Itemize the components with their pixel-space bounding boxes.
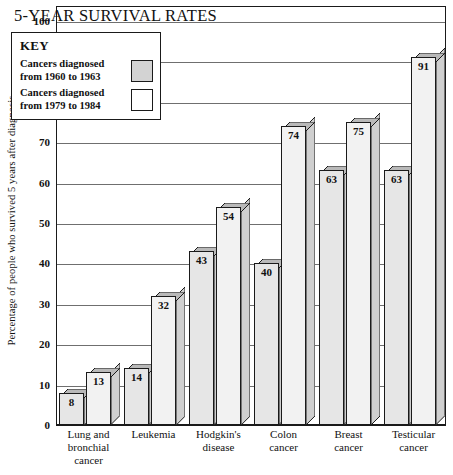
y-axis-title-text: Percentage of people who survived 5 year… xyxy=(6,95,17,345)
bar-value-label: 54 xyxy=(216,210,241,222)
bar-value-label: 43 xyxy=(189,254,214,266)
x-label-3-line1: Hodgkin's xyxy=(186,428,251,441)
bar-front-face xyxy=(281,126,306,425)
bar-new: 32 xyxy=(151,287,176,425)
x-label-6-line1: Testicular xyxy=(381,428,446,441)
legend-swatch-empty-icon xyxy=(131,89,153,111)
chart-title: 5-YEAR SURVIVAL RATES xyxy=(14,6,217,26)
bar-new: 91 xyxy=(411,48,436,425)
bar-front-face xyxy=(384,170,409,425)
bar-value-label: 13 xyxy=(86,375,111,387)
x-label-1-line3: cancer xyxy=(56,454,121,467)
x-label-1-line2: bronchial xyxy=(56,441,121,454)
bar-value-label: 74 xyxy=(281,129,306,141)
legend-heading: KEY xyxy=(20,38,153,54)
x-label-2: Leukemia xyxy=(121,428,186,441)
bar-old: 63 xyxy=(384,161,409,425)
bar-top-cap xyxy=(86,363,120,372)
x-label-2-line1: Leukemia xyxy=(121,428,186,441)
bar-value-label: 32 xyxy=(151,299,176,311)
bar-new: 13 xyxy=(86,363,111,425)
bar-front-face xyxy=(189,251,214,425)
x-label-4-line2: cancer xyxy=(251,441,316,454)
y-tick-label-40: 40 xyxy=(39,257,50,269)
bar-top-cap xyxy=(281,117,315,126)
x-label-1: Lung andbronchialcancer xyxy=(56,428,121,467)
bar-front-face xyxy=(254,263,279,425)
legend-entry-1960-1963-line2: from 1960 to 1963 xyxy=(20,71,104,84)
legend-swatch-filled-icon xyxy=(131,60,153,82)
legend-entry-1979-1984-line1: Cancers diagnosed xyxy=(20,87,104,100)
bar-front-face xyxy=(151,296,176,425)
legend: KEY Cancers diagnosed from 1960 to 1963 … xyxy=(11,32,161,120)
bar-top-cap xyxy=(411,48,445,57)
bar-side-face xyxy=(306,117,315,425)
y-tick-label-30: 30 xyxy=(39,298,50,310)
bar-group: 4074 xyxy=(254,6,315,425)
bar-new: 75 xyxy=(346,113,371,425)
legend-entry-1960-1963-line1: Cancers diagnosed xyxy=(20,58,104,71)
bar-old: 14 xyxy=(124,359,149,425)
legend-entry-1960-1963-text: Cancers diagnosed from 1960 to 1963 xyxy=(20,58,104,83)
y-tick-label-0: 0 xyxy=(45,419,51,431)
bar-front-face xyxy=(216,207,241,425)
bar-group: 6391 xyxy=(384,6,445,425)
x-axis-category-labels: Lung andbronchialcancerLeukemiaHodgkin's… xyxy=(56,428,446,475)
bar-value-label: 63 xyxy=(319,173,344,185)
bar-new: 74 xyxy=(281,117,306,425)
y-tick-label-10: 10 xyxy=(39,379,50,391)
bar-new: 54 xyxy=(216,198,241,425)
y-tick-label-20: 20 xyxy=(39,338,50,350)
bar-old: 63 xyxy=(319,161,344,425)
x-label-5-line1: Breast xyxy=(316,428,381,441)
bar-top-cap xyxy=(151,287,185,296)
legend-entry-1979-1984-line2: from 1979 to 1984 xyxy=(20,100,104,113)
y-tick-label-60: 60 xyxy=(39,177,50,189)
legend-entry-1979-1984: Cancers diagnosed from 1979 to 1984 xyxy=(20,87,153,112)
bar-old: 8 xyxy=(59,384,84,425)
bar-value-label: 75 xyxy=(346,125,371,137)
bar-front-face xyxy=(319,170,344,425)
x-label-5: Breastcancer xyxy=(316,428,381,454)
bar-value-label: 91 xyxy=(411,60,436,72)
bar-side-face xyxy=(371,113,380,425)
x-label-4: Coloncancer xyxy=(251,428,316,454)
bar-front-face xyxy=(411,57,436,425)
bar-front-face xyxy=(346,122,371,425)
bar-side-face xyxy=(241,198,250,425)
x-label-1-line1: Lung and xyxy=(56,428,121,441)
bar-chart-figure: Percentage of people who survived 5 year… xyxy=(0,0,453,475)
bar-top-cap xyxy=(346,113,380,122)
bar-side-face xyxy=(436,48,445,425)
bar-top-cap xyxy=(216,198,250,207)
bar-group: 6375 xyxy=(319,6,380,425)
bar-value-label: 40 xyxy=(254,266,279,278)
x-label-3: Hodgkin'sdisease xyxy=(186,428,251,454)
legend-entry-1979-1984-text: Cancers diagnosed from 1979 to 1984 xyxy=(20,87,104,112)
bar-side-face xyxy=(176,287,185,425)
bar-old: 43 xyxy=(189,242,214,425)
x-label-5-line2: cancer xyxy=(316,441,381,454)
x-label-3-line2: disease xyxy=(186,441,251,454)
bar-value-label: 63 xyxy=(384,173,409,185)
bar-group: 4354 xyxy=(189,6,250,425)
y-tick-label-50: 50 xyxy=(39,217,50,229)
x-label-6: Testicularcancer xyxy=(381,428,446,454)
bar-value-label: 8 xyxy=(59,396,84,408)
bar-value-label: 14 xyxy=(124,371,149,383)
y-tick-label-70: 70 xyxy=(39,136,50,148)
x-label-6-line2: cancer xyxy=(381,441,446,454)
legend-entry-1960-1963: Cancers diagnosed from 1960 to 1963 xyxy=(20,58,153,83)
bar-old: 40 xyxy=(254,254,279,425)
x-label-4-line1: Colon xyxy=(251,428,316,441)
